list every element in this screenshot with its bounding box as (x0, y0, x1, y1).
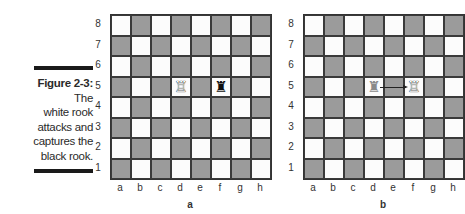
square-a7 (304, 36, 324, 57)
square-g2 (424, 138, 444, 159)
square-a4 (111, 97, 131, 118)
square-g7 (231, 36, 251, 57)
square-e1 (384, 159, 404, 180)
square-b3 (324, 118, 344, 139)
square-f6 (404, 56, 424, 77)
rank-label: 3 (93, 121, 103, 132)
square-c5 (344, 77, 364, 98)
file-label: e (383, 182, 403, 193)
rank-label: 8 (286, 18, 296, 29)
square-h4 (251, 97, 271, 118)
square-h4 (444, 97, 464, 118)
square-e6 (384, 56, 404, 77)
square-c8 (344, 15, 364, 36)
square-b4 (131, 97, 151, 118)
move-arrow-icon (380, 87, 406, 88)
square-h5 (444, 77, 464, 98)
square-h5 (251, 77, 271, 98)
rank-label: 2 (286, 141, 296, 152)
square-g3 (424, 118, 444, 139)
square-h7 (251, 36, 271, 57)
square-h6 (444, 56, 464, 77)
square-b6 (131, 56, 151, 77)
file-label: a (110, 182, 130, 193)
square-c6 (344, 56, 364, 77)
square-e4 (191, 97, 211, 118)
black-rook-icon: ♜ (214, 79, 227, 94)
square-e3 (384, 118, 404, 139)
figure-caption: Figure 2-3: The white rook attacks and c… (20, 76, 93, 164)
file-label: a (303, 182, 323, 193)
square-b4 (324, 97, 344, 118)
square-g6 (424, 56, 444, 77)
square-c8 (151, 15, 171, 36)
square-e7 (384, 36, 404, 57)
square-e6 (191, 56, 211, 77)
white-rook-icon: ♖ (174, 79, 187, 94)
square-f2 (404, 138, 424, 159)
file-label: c (150, 182, 170, 193)
caption-line: black rook. (20, 149, 93, 164)
square-c1 (344, 159, 364, 180)
rank-label: 1 (93, 162, 103, 173)
square-c2 (344, 138, 364, 159)
square-f6 (211, 56, 231, 77)
square-f8 (211, 15, 231, 36)
caption-top-rule (34, 66, 93, 70)
square-a6 (304, 56, 324, 77)
square-d6 (171, 56, 191, 77)
square-a7 (111, 36, 131, 57)
rank-label: 3 (286, 121, 296, 132)
caption-line: captures the (20, 134, 93, 149)
square-h7 (444, 36, 464, 57)
rank-label: 5 (93, 80, 103, 91)
file-label: b (323, 182, 343, 193)
square-b3 (131, 118, 151, 139)
square-b5 (131, 77, 151, 98)
square-c3 (344, 118, 364, 139)
square-a2 (304, 138, 324, 159)
square-c7 (344, 36, 364, 57)
square-g7 (424, 36, 444, 57)
square-f3 (211, 118, 231, 139)
square-c1 (151, 159, 171, 180)
chessboard-b: ♜♖ (303, 14, 465, 180)
file-label: h (250, 182, 270, 193)
square-a3 (111, 118, 131, 139)
square-g6 (231, 56, 251, 77)
square-b7 (324, 36, 344, 57)
square-g8 (231, 15, 251, 36)
square-e3 (191, 118, 211, 139)
square-b2 (131, 138, 151, 159)
square-e1 (191, 159, 211, 180)
square-a2 (111, 138, 131, 159)
square-h3 (251, 118, 271, 139)
square-g4 (231, 97, 251, 118)
square-e4 (384, 97, 404, 118)
square-b1 (324, 159, 344, 180)
square-f7 (211, 36, 231, 57)
square-h1 (251, 159, 271, 180)
square-b1 (131, 159, 151, 180)
rank-label: 7 (286, 39, 296, 50)
file-label: d (363, 182, 383, 193)
square-b7 (131, 36, 151, 57)
square-a5 (304, 77, 324, 98)
figure-number: Figure 2-3: (20, 76, 93, 91)
square-d8 (171, 15, 191, 36)
caption-bottom-rule (34, 169, 93, 173)
square-d7 (171, 36, 191, 57)
square-b8 (324, 15, 344, 36)
file-label: b (130, 182, 150, 193)
square-a1 (304, 159, 324, 180)
file-label: d (170, 182, 190, 193)
board-caption-a: a (180, 199, 200, 210)
square-c2 (151, 138, 171, 159)
square-f7 (404, 36, 424, 57)
square-e8 (384, 15, 404, 36)
rank-label: 8 (93, 18, 103, 29)
square-b6 (324, 56, 344, 77)
square-f1 (211, 159, 231, 180)
square-e8 (191, 15, 211, 36)
square-a3 (304, 118, 324, 139)
